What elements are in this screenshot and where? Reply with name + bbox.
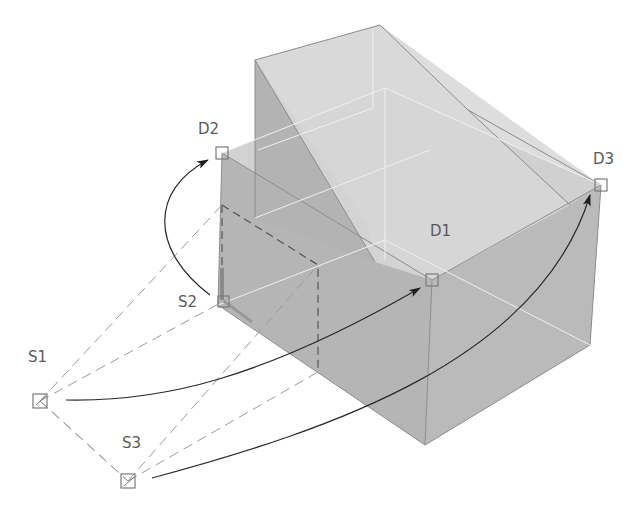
label-d1: D1 [430, 222, 451, 240]
label-d2: D2 [198, 120, 219, 138]
label-s2: S2 [178, 293, 197, 311]
label-d3: D3 [593, 150, 614, 168]
diagram-canvas: S1 S2 S3 D1 D2 D3 [0, 0, 635, 510]
label-s3: S3 [122, 434, 141, 452]
arrow-s2-to-d2 [165, 160, 210, 295]
label-s1: S1 [28, 348, 47, 366]
